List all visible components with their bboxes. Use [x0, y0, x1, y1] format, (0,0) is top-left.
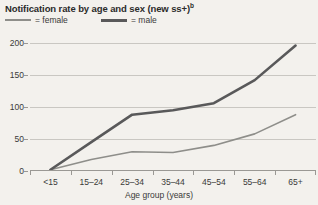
y-axis-tick-label: 100	[10, 102, 24, 112]
series-line-female	[50, 115, 295, 170]
legend-swatch-female-icon	[5, 19, 31, 21]
y-axis-tick-label: 200	[10, 38, 24, 48]
x-axis-tick-label: <15	[43, 177, 57, 187]
x-axis-tick-mark	[193, 171, 194, 175]
y-axis-tick-mark	[24, 107, 28, 108]
x-axis-tick-label: 55–64	[243, 177, 267, 187]
plot-area	[30, 43, 316, 171]
series-line-male	[50, 46, 295, 170]
legend-item-female: = female	[5, 15, 68, 25]
x-axis-tick-mark	[112, 171, 113, 175]
x-axis-tick-mark	[315, 171, 316, 175]
legend-swatch-male-icon	[101, 19, 127, 22]
x-axis-tick-mark	[234, 171, 235, 175]
legend-label-male: = male	[131, 15, 157, 25]
x-axis-tick-mark	[153, 171, 154, 175]
x-axis-labels: <1515–2425–3435–4445–5455–6465+	[30, 177, 316, 189]
x-axis-tick-label: 65+	[288, 177, 302, 187]
y-axis-tick-mark	[24, 171, 28, 172]
y-axis-tick-mark	[24, 43, 28, 44]
x-axis-tick-mark	[275, 171, 276, 175]
x-axis-tick-mark	[71, 171, 72, 175]
legend-label-female: = female	[35, 15, 68, 25]
y-axis-tick-label: 150	[10, 70, 24, 80]
x-axis-tick-label: 45–54	[202, 177, 226, 187]
chart-title-footnote-marker: b	[190, 2, 194, 9]
y-axis-tick-label: 50	[15, 134, 24, 144]
y-axis-tick-mark	[24, 139, 28, 140]
chart-container: Notification rate by age and sex (new ss…	[0, 0, 318, 205]
x-axis-tick-mark	[30, 171, 31, 175]
series-lines	[30, 43, 316, 171]
x-axis-tick-label: 35–44	[161, 177, 185, 187]
x-axis-tick-label: 15–24	[79, 177, 103, 187]
y-axis-tick-mark	[24, 75, 28, 76]
x-axis-ticks	[30, 171, 316, 176]
y-axis: 050100150200	[0, 43, 28, 171]
chart-title: Notification rate by age and sex (new ss…	[5, 2, 194, 14]
x-axis-title: Age group (years)	[0, 190, 318, 200]
legend-item-male: = male	[101, 15, 157, 25]
x-axis-tick-label: 25–34	[120, 177, 144, 187]
chart-title-text: Notification rate by age and sex (new ss…	[5, 3, 190, 14]
